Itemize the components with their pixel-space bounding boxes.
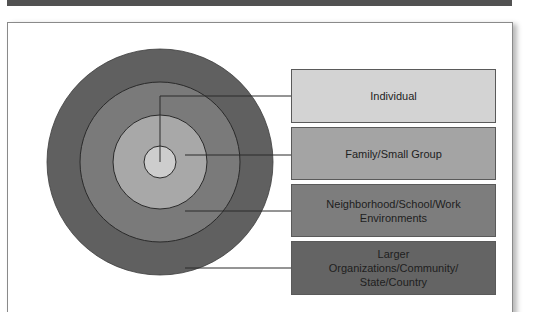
- label-larger: Larger Organizations/Community/ State/Co…: [329, 247, 459, 289]
- label-family: Family/Small Group: [345, 147, 442, 161]
- label-box-individual: Individual: [291, 69, 496, 123]
- label-neighborhood: Neighborhood/School/Work Environments: [326, 197, 460, 225]
- label-box-family: Family/Small Group: [291, 127, 496, 180]
- label-box-neighborhood: Neighborhood/School/Work Environments: [291, 184, 496, 237]
- label-box-larger: Larger Organizations/Community/ State/Co…: [291, 241, 496, 295]
- label-individual: Individual: [370, 89, 416, 103]
- figure-canvas: Individual Family/Small Group Neighborho…: [0, 0, 546, 312]
